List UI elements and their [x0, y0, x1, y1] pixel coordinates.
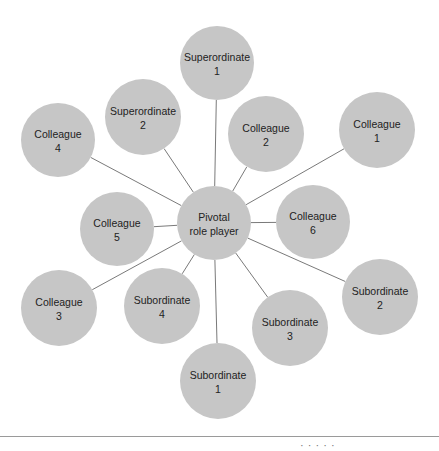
node-pivotal: Pivotalrole player — [177, 186, 251, 260]
node-label-line2: 4 — [159, 308, 165, 320]
node-circle — [21, 103, 95, 177]
node-colleague-5: Colleague5 — [80, 192, 154, 266]
node-colleague-6: Colleague6 — [276, 185, 350, 259]
node-subordinate-1: Subordinate1 — [180, 343, 256, 419]
node-circle — [252, 290, 328, 366]
node-label-line2: 6 — [310, 224, 316, 236]
node-subordinate-2: Subordinate2 — [342, 259, 418, 335]
node-circle — [80, 192, 154, 266]
node-label-line2: 3 — [56, 310, 62, 322]
node-label-line1: Pivotal — [198, 211, 230, 223]
node-label-line1: Colleague — [353, 118, 400, 130]
node-colleague-1: Colleague1 — [339, 92, 415, 168]
node-label-line2: 1 — [374, 132, 380, 144]
node-circle — [180, 343, 256, 419]
footer-divider — [0, 436, 439, 437]
node-circle — [180, 26, 254, 100]
node-colleague-2: Colleague2 — [228, 96, 304, 172]
node-circle — [177, 186, 251, 260]
node-label-line2: 3 — [287, 330, 293, 342]
node-colleague-4: Colleague4 — [21, 103, 95, 177]
connector-colleague-5 — [154, 225, 177, 226]
node-circle — [105, 79, 181, 155]
node-label-line1: Colleague — [289, 210, 336, 222]
connector-colleague-2 — [233, 167, 247, 191]
node-circle — [228, 96, 304, 172]
node-label-line1: Subordinate — [352, 285, 409, 297]
connector-subordinate-3 — [236, 253, 268, 297]
node-label-line1: Colleague — [242, 122, 289, 134]
node-circle — [339, 92, 415, 168]
hub-node-pivotal-role-player: Pivotalrole player — [177, 186, 251, 260]
connector-superordinate-2 — [164, 149, 193, 193]
node-circle — [342, 259, 418, 335]
node-label-line2: 4 — [55, 142, 61, 154]
connector-superordinate-1 — [215, 100, 217, 186]
node-label-line1: Subordinate — [190, 369, 247, 381]
node-superordinate-1: Superordinate1 — [180, 26, 254, 100]
footer-cutoff-text: · · · · · — [300, 439, 335, 451]
node-label-line2: 2 — [140, 119, 146, 131]
connector-subordinate-1 — [215, 260, 217, 343]
node-subordinate-4: Subordinate4 — [124, 268, 200, 344]
node-label-line2: 1 — [214, 65, 220, 77]
node-label-line1: Colleague — [34, 128, 81, 140]
node-label-line2: 2 — [377, 299, 383, 311]
node-label-line2: 5 — [114, 231, 120, 243]
node-label-line1: Superordinate — [184, 51, 250, 63]
node-label-line2: role player — [189, 225, 239, 237]
node-label-line2: 2 — [263, 136, 269, 148]
node-label-line1: Subordinate — [262, 316, 319, 328]
node-superordinate-2: Superordinate2 — [105, 79, 181, 155]
node-colleague-3: Colleague3 — [21, 270, 97, 346]
node-circle — [124, 268, 200, 344]
node-label-line1: Superordinate — [110, 105, 176, 117]
node-label-line1: Colleague — [35, 296, 82, 308]
node-subordinate-3: Subordinate3 — [252, 290, 328, 366]
node-label-line1: Colleague — [93, 217, 140, 229]
node-label-line1: Subordinate — [134, 294, 191, 306]
connector-subordinate-4 — [182, 254, 194, 273]
node-circle — [21, 270, 97, 346]
node-label-line2: 1 — [215, 383, 221, 395]
node-circle — [276, 185, 350, 259]
